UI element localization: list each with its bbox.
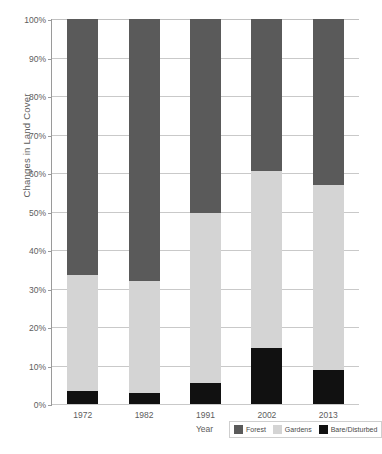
legend-item[interactable]: Forest — [234, 425, 266, 434]
legend-swatch-icon — [319, 425, 328, 434]
legend-swatch-icon — [273, 425, 282, 434]
x-tick-label: 2013 — [319, 410, 338, 420]
gridline: 0% — [52, 404, 359, 405]
plot-area: 0%10%20%30%40%50%60%70%80%90%100% 197219… — [51, 19, 359, 405]
legend-swatch-icon — [234, 425, 243, 434]
bar-segment-gardens[interactable] — [129, 281, 160, 393]
bar-segment-gardens[interactable] — [313, 185, 344, 371]
y-tick-label: 80% — [29, 92, 46, 102]
bar-segment-bare-disturbed[interactable] — [313, 370, 344, 404]
chart-legend: ForestGardensBare/Disturbed — [229, 421, 382, 438]
legend-label: Bare/Disturbed — [331, 426, 378, 433]
y-tick-label: 70% — [29, 131, 46, 141]
bar-segment-bare-disturbed[interactable] — [251, 348, 282, 404]
bar-group[interactable]: 1982 — [129, 19, 160, 404]
y-tick-label: 30% — [29, 285, 46, 295]
y-tick-label: 40% — [29, 246, 46, 256]
y-tick-mark — [48, 405, 52, 406]
bar-segment-gardens[interactable] — [251, 171, 282, 348]
bar-segment-gardens[interactable] — [67, 275, 98, 391]
y-tick-label: 20% — [29, 323, 46, 333]
bar-segment-bare-disturbed[interactable] — [67, 391, 98, 404]
legend-item[interactable]: Gardens — [273, 425, 312, 434]
y-tick-label: 50% — [29, 208, 46, 218]
bar-segment-forest[interactable] — [129, 19, 160, 281]
bars-container: 19721982199120022013 — [52, 19, 359, 404]
y-tick-label: 60% — [29, 169, 46, 179]
bar-group[interactable]: 2013 — [313, 19, 344, 404]
bar-group[interactable]: 1972 — [67, 19, 98, 404]
bar-segment-forest[interactable] — [313, 19, 344, 185]
y-axis-title: Changes in Land Cover — [21, 66, 32, 226]
bar-segment-forest[interactable] — [190, 19, 221, 213]
y-tick-label: 100% — [24, 15, 46, 25]
bar-group[interactable]: 2002 — [251, 19, 282, 404]
bar-segment-forest[interactable] — [67, 19, 98, 275]
y-tick-label: 10% — [29, 362, 46, 372]
legend-label: Forest — [246, 426, 266, 433]
legend-label: Gardens — [285, 426, 312, 433]
legend-item[interactable]: Bare/Disturbed — [319, 425, 378, 434]
bar-segment-bare-disturbed[interactable] — [129, 393, 160, 404]
x-tick-label: 1982 — [135, 410, 154, 420]
y-tick-label: 90% — [29, 54, 46, 64]
y-tick-label: 0% — [34, 400, 46, 410]
x-tick-label: 2002 — [257, 410, 276, 420]
bar-segment-forest[interactable] — [251, 19, 282, 171]
bar-segment-gardens[interactable] — [190, 213, 221, 382]
x-tick-label: 1972 — [73, 410, 92, 420]
bar-group[interactable]: 1991 — [190, 19, 221, 404]
bar-segment-bare-disturbed[interactable] — [190, 383, 221, 404]
x-tick-label: 1991 — [196, 410, 215, 420]
